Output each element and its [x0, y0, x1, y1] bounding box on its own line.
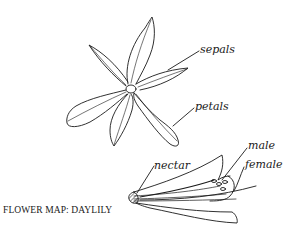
- lower-tepal: [136, 203, 237, 223]
- diagram-title: FLOWER MAP: DAYLILY: [3, 205, 112, 215]
- petal-bottom: [110, 94, 133, 146]
- flower-center: [126, 85, 136, 93]
- petals-label: petals: [195, 101, 229, 112]
- nectar-label: nectar: [154, 160, 190, 171]
- petals-leader-line: [173, 108, 194, 126]
- daylily-diagram: [0, 0, 290, 233]
- flower-top-view: [67, 17, 199, 146]
- male-label: male: [248, 140, 275, 151]
- petal-bottom-right: [134, 93, 179, 146]
- anther-3: [223, 181, 228, 184]
- female-leader-line: [234, 167, 244, 191]
- female-label: female: [245, 159, 283, 170]
- male-leader-line: [222, 148, 247, 180]
- sepals-leader-line: [168, 51, 199, 70]
- stamen-filaments: [140, 180, 214, 197]
- petal-top: [127, 17, 154, 84]
- sepals-label: sepals: [200, 44, 235, 55]
- flower-side-view: [129, 148, 256, 223]
- anther-2: [217, 183, 222, 186]
- nectar-base: [129, 192, 139, 203]
- anther-4: [221, 188, 226, 191]
- nectar-leader-line: [137, 166, 154, 193]
